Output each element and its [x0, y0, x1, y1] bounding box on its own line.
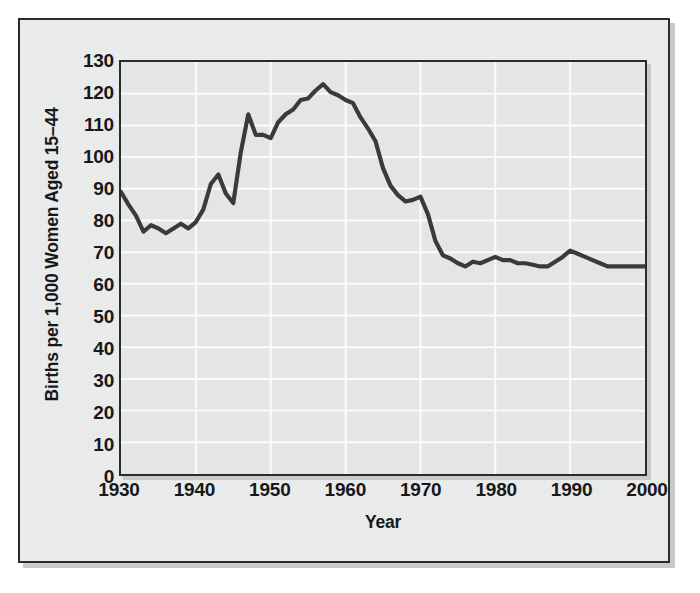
y-tick-label: 100	[56, 147, 114, 166]
x-axis-title: Year	[119, 512, 647, 533]
chart-panel: 0102030405060708090100110120130 Births p…	[18, 18, 670, 563]
chart-svg	[121, 62, 645, 474]
x-tick-label: 1930	[98, 480, 139, 499]
x-tick-label: 1960	[325, 480, 366, 499]
y-tick-label: 90	[56, 179, 114, 198]
y-tick-label: 80	[56, 211, 114, 230]
x-tick-label: 1940	[174, 480, 215, 499]
x-tick-label: 1980	[475, 480, 516, 499]
fertility-rate-line	[121, 84, 645, 266]
y-tick-label: 20	[56, 403, 114, 422]
y-tick-label: 40	[56, 339, 114, 358]
y-tick-label: 30	[56, 371, 114, 390]
x-tick-label: 1990	[551, 480, 592, 499]
y-tick-label: 110	[56, 115, 114, 134]
plot-inner	[121, 62, 645, 474]
y-tick-label: 120	[56, 83, 114, 102]
y-tick-label: 50	[56, 307, 114, 326]
y-tick-label: 60	[56, 275, 114, 294]
x-tick-label: 1970	[400, 480, 441, 499]
chart-figure: 0102030405060708090100110120130 Births p…	[0, 0, 700, 593]
y-tick-label: 130	[56, 51, 114, 70]
x-tick-label: 2000	[626, 480, 667, 499]
x-tick-label: 1950	[249, 480, 290, 499]
y-tick-label: 70	[56, 243, 114, 262]
x-axis-ticks: 19301940195019601970198019902000	[119, 480, 647, 510]
horizontal-gridlines	[121, 94, 645, 443]
y-tick-label: 10	[56, 435, 114, 454]
plot-area	[119, 60, 647, 476]
y-axis-title: Births per 1,000 Women Aged 15–44	[42, 45, 63, 465]
